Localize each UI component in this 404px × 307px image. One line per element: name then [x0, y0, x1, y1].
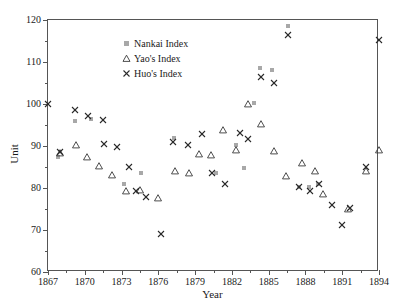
- data-point-cross: [220, 179, 229, 188]
- x-minor-tick: [103, 270, 104, 273]
- x-tick-mark: [379, 270, 380, 275]
- x-tick-label: 1885: [259, 277, 279, 287]
- x-tick-label: 1867: [38, 277, 58, 287]
- data-point-triangle: [257, 119, 266, 128]
- data-point-cross: [100, 139, 109, 148]
- y-minor-tick: [45, 251, 48, 252]
- data-point-triangle: [95, 161, 104, 170]
- data-point-cross: [112, 142, 121, 151]
- data-point-triangle: [154, 193, 163, 202]
- data-point-cross: [198, 130, 207, 139]
- x-tick-label: 1894: [369, 277, 389, 287]
- x-minor-tick: [324, 270, 325, 273]
- y-tick-mark: [43, 230, 48, 231]
- x-tick-label: 1876: [148, 277, 168, 287]
- x-tick-label: 1882: [222, 277, 242, 287]
- legend-label: Huo's Index: [134, 66, 182, 81]
- y-tick-label: 80: [31, 183, 41, 193]
- data-point-cross: [124, 163, 133, 172]
- data-point-cross: [375, 36, 384, 45]
- data-point-cross: [183, 141, 192, 150]
- legend-marker-triangle-icon: [118, 54, 134, 63]
- data-point-square: [270, 68, 274, 72]
- legend-label: Yao's Index: [134, 51, 181, 66]
- x-tick-mark: [85, 270, 86, 275]
- chart-legend: Nankai IndexYao's IndexHuo's Index: [118, 36, 188, 81]
- data-point-triangle: [171, 167, 180, 176]
- y-tick-label: 120: [26, 15, 41, 25]
- y-tick-label: 100: [26, 99, 41, 109]
- y-minor-tick: [45, 125, 48, 126]
- x-tick-label: 1870: [75, 277, 95, 287]
- x-tick-mark: [342, 270, 343, 275]
- y-tick-mark: [43, 20, 48, 21]
- data-point-cross: [295, 183, 304, 192]
- data-point-square: [73, 119, 77, 123]
- data-point-triangle: [297, 158, 306, 167]
- data-point-triangle: [72, 141, 81, 150]
- data-point-triangle: [219, 126, 228, 135]
- y-minor-tick: [45, 41, 48, 42]
- data-point-cross: [169, 137, 178, 146]
- x-minor-tick: [250, 270, 251, 273]
- y-tick-label: 70: [31, 225, 41, 235]
- x-tick-mark: [122, 270, 123, 275]
- data-point-square: [252, 101, 256, 105]
- x-tick-mark: [48, 270, 49, 275]
- data-point-triangle: [122, 186, 131, 195]
- data-point-triangle: [311, 167, 320, 176]
- legend-label: Nankai Index: [134, 36, 188, 51]
- data-point-cross: [70, 106, 79, 115]
- data-point-triangle: [318, 190, 327, 199]
- x-tick-mark: [269, 270, 270, 275]
- legend-item: Huo's Index: [118, 66, 188, 81]
- y-minor-tick: [45, 209, 48, 210]
- data-point-cross: [284, 30, 293, 39]
- x-axis-title: Year: [47, 288, 378, 300]
- x-minor-tick: [140, 270, 141, 273]
- data-point-cross: [345, 204, 354, 213]
- data-point-cross: [361, 163, 370, 172]
- x-tick-label: 1891: [332, 277, 352, 287]
- data-point-triangle: [231, 146, 240, 155]
- data-point-cross: [56, 147, 65, 156]
- x-minor-tick: [177, 270, 178, 273]
- data-point-square: [242, 166, 246, 170]
- data-point-square: [122, 182, 126, 186]
- y-axis-title: Unit: [8, 144, 20, 164]
- x-minor-tick: [214, 270, 215, 273]
- x-tick-label: 1873: [112, 277, 132, 287]
- data-point-triangle: [107, 170, 116, 179]
- data-point-square: [258, 66, 262, 70]
- data-point-cross: [338, 220, 347, 229]
- data-point-triangle: [122, 54, 131, 63]
- y-tick-mark: [43, 146, 48, 147]
- plot-area: 60708090100110120 1867187018731876187918…: [47, 19, 378, 271]
- data-point-cross: [99, 115, 108, 124]
- y-minor-tick: [45, 83, 48, 84]
- data-point-triangle: [83, 152, 92, 161]
- data-point-triangle: [269, 147, 278, 156]
- legend-marker-cross-icon: [118, 69, 134, 78]
- data-point-square: [286, 24, 290, 28]
- data-point-cross: [269, 79, 278, 88]
- data-point-triangle: [281, 172, 290, 181]
- x-tick-mark: [195, 270, 196, 275]
- legend-item: Yao's Index: [118, 51, 188, 66]
- data-point-triangle: [243, 100, 252, 109]
- x-tick-mark: [305, 270, 306, 275]
- data-point-cross: [328, 200, 337, 209]
- data-point-triangle: [194, 150, 203, 159]
- x-tick-label: 1879: [185, 277, 205, 287]
- y-minor-tick: [45, 167, 48, 168]
- data-point-square: [139, 171, 143, 175]
- data-point-cross: [314, 179, 323, 188]
- x-tick-mark: [158, 270, 159, 275]
- legend-marker-square-icon: [118, 41, 134, 46]
- x-tick-label: 1888: [295, 277, 315, 287]
- data-point-cross: [208, 169, 217, 178]
- data-point-cross: [257, 72, 266, 81]
- y-tick-label: 110: [26, 57, 41, 67]
- data-point-cross: [156, 230, 165, 239]
- data-point-cross: [122, 69, 131, 78]
